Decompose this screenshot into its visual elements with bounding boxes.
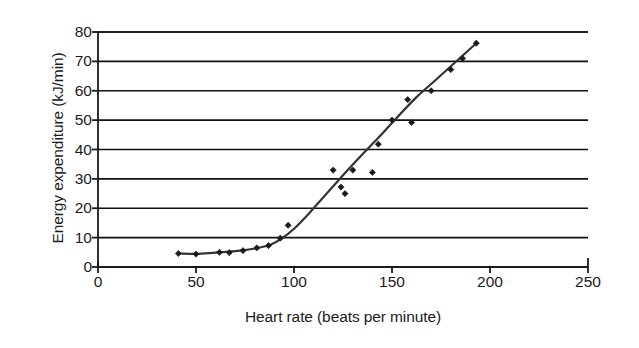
plot-area [0,0,639,348]
data-point [369,169,375,175]
data-point [254,245,260,251]
data-point [330,167,336,173]
data-point [405,97,411,103]
data-point [175,250,181,256]
x-tick-label: 0 [68,274,128,290]
x-tick-label: 50 [166,274,226,290]
data-point [342,191,348,197]
x-tick-label: 100 [264,274,324,290]
fitted-curve [178,43,476,254]
data-point [240,248,246,254]
data-point [375,141,381,147]
gridlines [98,32,588,238]
chart-container: Energy expenditure (kJ/min) 010203040506… [0,0,639,348]
x-tick-label: 200 [460,274,520,290]
x-tick-label: 150 [362,274,422,290]
data-point [338,184,344,190]
data-points [175,40,479,257]
x-tick-label: 250 [558,274,618,290]
data-point [265,243,271,249]
data-point [216,249,222,255]
data-point [428,88,434,94]
data-point [389,117,395,123]
data-point [193,251,199,257]
data-point [285,222,291,228]
